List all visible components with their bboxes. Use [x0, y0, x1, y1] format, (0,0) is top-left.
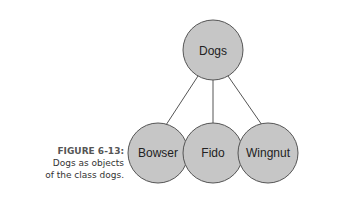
caption-line-2: of the class dogs.	[45, 169, 124, 181]
node-fido-label: Fido	[201, 146, 225, 160]
node-bowser-label: Bowser	[138, 146, 178, 160]
node-wingnut: Wingnut	[238, 123, 298, 183]
figure-caption: FIGURE 6-13: Dogs as objects of the clas…	[45, 145, 124, 181]
caption-line-1: Dogs as objects	[45, 157, 124, 169]
edge-dogs-wingnut	[228, 76, 262, 125]
figure-number: FIGURE 6-13:	[45, 145, 124, 157]
edge-dogs-bowser	[166, 76, 198, 125]
node-bowser: Bowser	[128, 123, 188, 183]
node-dogs: Dogs	[183, 20, 243, 80]
node-fido: Fido	[183, 123, 243, 183]
edges	[166, 76, 262, 125]
node-dogs-label: Dogs	[199, 44, 227, 58]
node-wingnut-label: Wingnut	[246, 146, 291, 160]
